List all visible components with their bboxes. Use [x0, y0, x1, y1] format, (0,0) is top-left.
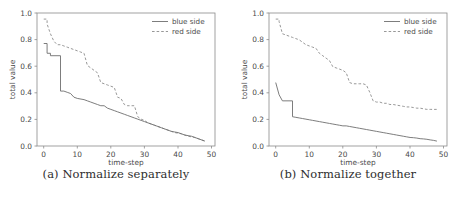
- x-tick-label-b-1: 10: [305, 150, 315, 159]
- y-tick-labels-b: 0.0 0.2 0.4 0.6 0.8 1.0: [252, 9, 264, 151]
- x-tick-label-a-1: 10: [73, 150, 83, 159]
- y-tick-label-b-5: 1.0: [252, 9, 264, 18]
- y-tick-label-a-5: 1.0: [20, 9, 32, 18]
- x-tick-label-a-4: 40: [173, 150, 183, 159]
- caption-a: (a) Normalize separately: [0, 167, 232, 181]
- panel-a: 0.0 0.2 0.4 0.6 0.8 1.0 0 1: [0, 0, 232, 200]
- legend-label-a-red: red side: [172, 27, 201, 36]
- y-tick-label-a-4: 0.8: [20, 35, 32, 44]
- x-tick-label-a-5: 50: [207, 150, 217, 159]
- y-tick-label-b-2: 0.4: [252, 88, 264, 97]
- caption-b: (b) Normalize together: [232, 167, 464, 181]
- figure-two-panel-line-charts: 0.0 0.2 0.4 0.6 0.8 1.0 0 1: [0, 0, 465, 200]
- y-axis-title-b: total value: [240, 59, 249, 99]
- legend-label-a-blue: blue side: [172, 17, 205, 26]
- legend-label-b-blue: blue side: [404, 17, 437, 26]
- y-axis-title-a: total value: [8, 59, 17, 99]
- x-tick-label-a-0: 0: [41, 150, 46, 159]
- legend-label-b-red: red side: [404, 27, 433, 36]
- y-tick-label-a-0: 0.0: [20, 142, 32, 151]
- y-tick-label-b-3: 0.6: [252, 62, 264, 71]
- y-tick-label-b-1: 0.2: [252, 115, 264, 124]
- x-axis-title-b: time-step: [340, 158, 376, 167]
- y-tick-label-a-3: 0.6: [20, 62, 32, 71]
- panel-b: 0.0 0.2 0.4 0.6 0.8 1.0 0 1: [232, 0, 464, 200]
- y-tick-label-a-2: 0.4: [20, 88, 32, 97]
- x-axis-title-a: time-step: [108, 158, 144, 167]
- y-tick-label-b-4: 0.8: [252, 35, 264, 44]
- y-tick-label-a-1: 0.2: [20, 115, 32, 124]
- x-tick-label-b-4: 40: [405, 150, 415, 159]
- x-tick-label-b-0: 0: [273, 150, 278, 159]
- x-tick-label-b-5: 50: [439, 150, 449, 159]
- y-tick-label-b-0: 0.0: [252, 142, 264, 151]
- y-tick-labels-a: 0.0 0.2 0.4 0.6 0.8 1.0: [20, 9, 32, 151]
- chart-b-plot-area: 0.0 0.2 0.4 0.6 0.8 1.0 0 1: [240, 9, 448, 167]
- chart-a-plot-area: 0.0 0.2 0.4 0.6 0.8 1.0 0 1: [8, 9, 216, 167]
